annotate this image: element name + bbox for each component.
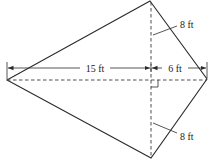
label-15ft: 15 ft [86, 63, 105, 74]
kite-outline [7, 1, 207, 158]
right-angle-marker [151, 80, 158, 87]
label-lower-8ft: 8 ft [180, 131, 194, 142]
kite-diagram: 15 ft 6 ft 8 ft 8 ft [0, 0, 209, 160]
label-upper-8ft: 8 ft [180, 19, 194, 30]
label-6ft: 6 ft [168, 63, 182, 74]
leader-line-lower-8ft [153, 123, 177, 133]
